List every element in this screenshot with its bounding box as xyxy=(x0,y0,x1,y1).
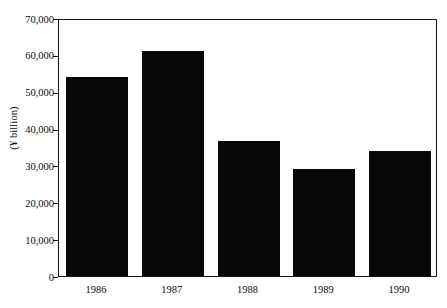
bar xyxy=(293,169,355,276)
x-tick-label: 1989 xyxy=(293,283,353,296)
bars-layer xyxy=(59,20,436,276)
y-tick-label: 60,000 xyxy=(0,50,54,61)
x-tick-label: 1986 xyxy=(66,283,126,296)
bar xyxy=(218,141,280,276)
y-tick-label: 40,000 xyxy=(0,124,54,135)
y-tick-label: 10,000 xyxy=(0,235,54,246)
bar xyxy=(142,51,204,276)
bar xyxy=(369,151,431,276)
y-tick-label: 70,000 xyxy=(0,14,54,25)
y-tick-label: 50,000 xyxy=(0,87,54,98)
y-tick-label: 0 xyxy=(0,272,54,283)
bar xyxy=(66,77,128,276)
plot-area xyxy=(58,19,437,277)
y-tick-label: 30,000 xyxy=(0,161,54,172)
y-tick-label: 20,000 xyxy=(0,198,54,209)
bar-chart: (¥ billion) 010,00020,00030,00040,00050,… xyxy=(0,0,447,308)
x-tick-label: 1988 xyxy=(218,283,278,296)
y-axis-tick-labels: 010,00020,00030,00040,00050,00060,00070,… xyxy=(0,0,54,308)
x-tick-label: 1987 xyxy=(142,283,202,296)
x-tick-label: 1990 xyxy=(369,283,429,296)
x-axis-tick-labels: 19861987198819891990 xyxy=(58,283,437,299)
y-tick-mark xyxy=(53,277,58,278)
